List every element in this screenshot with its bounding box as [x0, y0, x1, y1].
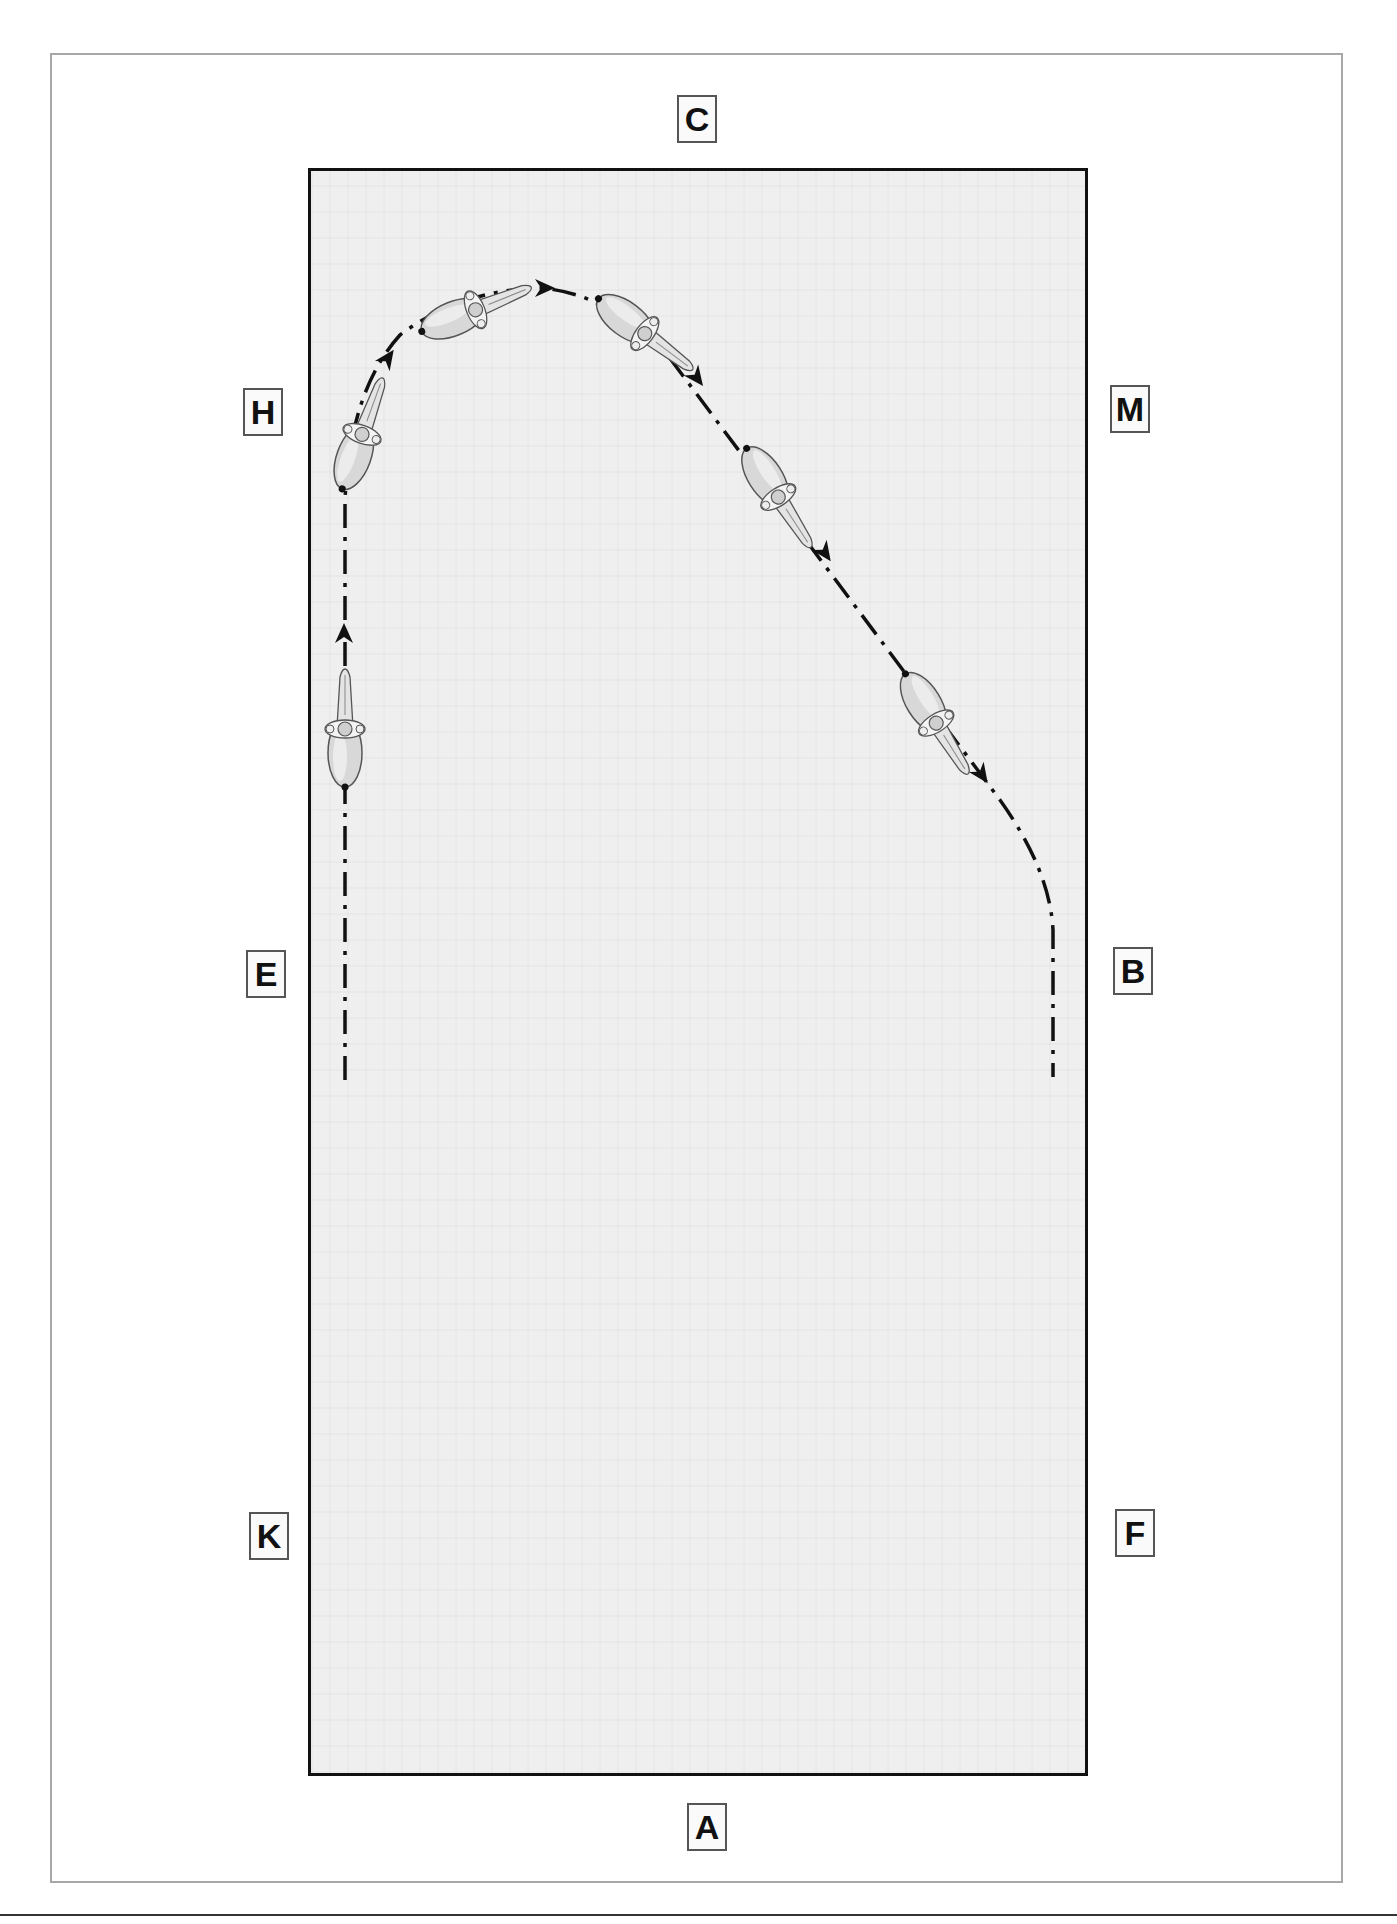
- horse-and-rider-icon: [584, 281, 705, 386]
- marker-f: F: [1115, 1509, 1155, 1557]
- direction-arrow-icon: [535, 279, 555, 297]
- horse-and-rider-icon: [728, 435, 828, 559]
- marker-c: C: [677, 95, 717, 143]
- horse-and-rider-icon: [887, 660, 985, 784]
- marker-b: B: [1113, 947, 1153, 995]
- marker-e: E: [246, 950, 286, 998]
- marker-m: M: [1110, 385, 1150, 433]
- marker-k: K: [249, 1512, 289, 1560]
- horse-and-rider-icon: [322, 371, 401, 499]
- direction-arrow-icon: [335, 623, 353, 643]
- marker-a: A: [687, 1803, 727, 1851]
- marker-h: H: [243, 388, 283, 436]
- horse-and-rider-icon: [325, 669, 365, 791]
- course-diagram: [0, 0, 1397, 1924]
- horse-and-rider-icon: [411, 269, 539, 352]
- rider-track: [345, 288, 1053, 1080]
